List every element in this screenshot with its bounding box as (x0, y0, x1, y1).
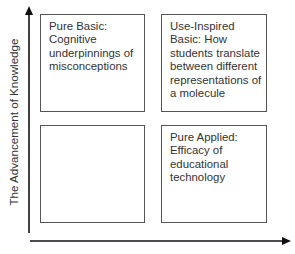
quadrant-text: Pure Basic: Cognitive underpinnings of m… (49, 20, 140, 74)
quadrant-text: Use-Inspired Basic: How students transla… (170, 20, 262, 100)
quadrant-use-inspired-basic: Use-Inspired Basic: How students transla… (161, 14, 267, 112)
y-axis-arrow-icon (25, 6, 33, 15)
quadrant-text: Pure Applied: Efficacy of educational te… (170, 131, 262, 185)
quadrant-pure-basic: Pure Basic: Cognitive underpinnings of m… (40, 14, 145, 112)
quadrant-empty (40, 125, 145, 223)
quadrant-pure-applied: Pure Applied: Efficacy of educational te… (161, 125, 267, 223)
y-axis-label: The Advancement of Knowledge (7, 39, 20, 206)
x-axis-arrow-icon (282, 237, 291, 245)
